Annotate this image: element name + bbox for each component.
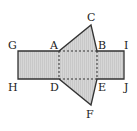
net-fill	[18, 25, 124, 105]
label-b: B	[98, 39, 106, 52]
label-a: A	[49, 39, 59, 52]
label-e: E	[98, 81, 106, 94]
label-j: J	[123, 81, 128, 94]
label-g: G	[8, 39, 17, 52]
label-i: I	[124, 39, 128, 52]
prism-net-diagram: C G A B I H D E J F	[0, 0, 137, 131]
label-h: H	[8, 81, 18, 94]
label-d: D	[50, 81, 59, 94]
label-f: F	[86, 108, 94, 121]
label-c: C	[87, 11, 95, 24]
